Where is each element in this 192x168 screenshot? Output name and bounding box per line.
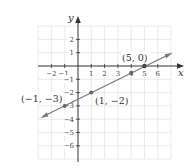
y-tick-label: 2 <box>70 36 74 44</box>
point-label-1-neg2: (1, −2) <box>95 95 129 106</box>
line-series <box>41 53 173 118</box>
y-tick-labels: 2 1 −1 −2 −3 −4 −5 −6 <box>64 35 75 150</box>
x-tick-label: −2 <box>46 70 56 78</box>
line-arrow-left-icon <box>41 112 49 118</box>
y-tick-label: 1 <box>70 49 74 57</box>
x-tick-label: 2 <box>102 70 106 78</box>
x-tick-label: 1 <box>89 70 93 78</box>
point-neg1-neg3 <box>63 104 67 108</box>
point-label-5-0: (5, 0) <box>122 52 148 63</box>
y-axis <box>75 16 81 162</box>
y-tick-label: −6 <box>64 142 75 150</box>
y-axis-arrow-icon <box>75 16 81 23</box>
point-5-0 <box>142 64 146 68</box>
x-tick-label: 6 <box>156 70 161 78</box>
x-tick-label: 3 <box>116 70 120 78</box>
y-tick-label: −2 <box>64 89 74 97</box>
y-tick-label: −4 <box>64 116 75 124</box>
y-axis-label: y <box>67 12 74 23</box>
y-tick-label: −5 <box>64 129 74 137</box>
x-tick-label: 5 <box>142 70 146 78</box>
y-tick-label: −1 <box>64 76 74 84</box>
point-label-neg1-neg3: (−1, −3) <box>21 93 62 104</box>
point-1-neg2 <box>89 91 93 95</box>
coordinate-plane: −2 −1 1 2 3 4 5 6 2 1 −1 −2 −3 −4 −5 −6 … <box>0 0 192 168</box>
x-tick-labels: −2 −1 1 2 3 4 5 6 <box>44 69 161 78</box>
x-axis-label: x <box>178 67 184 78</box>
point-4-neg0.5 <box>129 71 133 75</box>
x-axis <box>38 63 184 69</box>
